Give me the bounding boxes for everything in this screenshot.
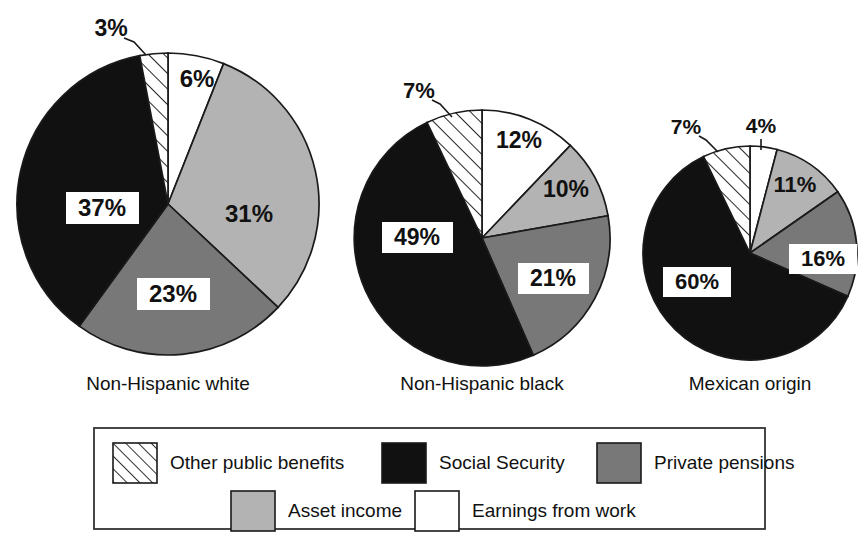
- pie-caption-non-hispanic-black: Non-Hispanic black: [400, 373, 564, 394]
- callout-line-other-public-benefits: [432, 100, 452, 117]
- pie-caption-mexican-origin: Mexican origin: [689, 373, 812, 394]
- pie-label-private-pensions: 16%: [801, 246, 845, 271]
- pie-label-earnings-from-work: 6%: [180, 65, 215, 92]
- legend-swatch-earnings-from-work: [415, 491, 459, 531]
- pie-label-social-security: 49%: [394, 224, 440, 250]
- legend-label-asset-income: Asset income: [288, 500, 402, 521]
- pie-label-other-public-benefits: 3%: [94, 15, 127, 41]
- legend-swatch-private-pensions: [597, 443, 641, 483]
- legend-label-private-pensions: Private pensions: [654, 452, 794, 473]
- pie-label-private-pensions: 21%: [530, 265, 576, 291]
- legend: Other public benefits Social Security Pr…: [94, 428, 794, 531]
- legend-swatch-other-public-benefits: [113, 443, 157, 483]
- pie-label-other-public-benefits: 7%: [671, 115, 702, 138]
- pie-chart-mexican-origin: 7% 4% 11% 16% 60% Mexican origin: [643, 114, 857, 394]
- legend-label-earnings-from-work: Earnings from work: [472, 500, 636, 521]
- pie-label-other-public-benefits: 7%: [403, 78, 435, 103]
- pie-label-earnings-from-work: 4%: [746, 114, 777, 137]
- pie-label-earnings-from-work: 12%: [496, 127, 542, 153]
- pie-chart-figure: 3% 6% 31% 23% 37% Non-Hispanic white 7% …: [0, 0, 867, 549]
- pie-label-social-security: 37%: [78, 194, 126, 221]
- pie-label-private-pensions: 23%: [149, 280, 197, 307]
- pie-chart-non-hispanic-white: 3% 6% 31% 23% 37% Non-Hispanic white: [17, 15, 319, 394]
- pie-caption-non-hispanic-white: Non-Hispanic white: [86, 373, 250, 394]
- pie-label-asset-income: 10%: [543, 176, 589, 202]
- chart-canvas: 3% 6% 31% 23% 37% Non-Hispanic white 7% …: [0, 0, 867, 549]
- legend-swatch-asset-income: [231, 491, 275, 531]
- legend-label-social-security: Social Security: [439, 452, 565, 473]
- legend-label-other-public-benefits: Other public benefits: [170, 452, 344, 473]
- pie-label-asset-income: 31%: [225, 200, 273, 227]
- pie-label-social-security: 60%: [675, 269, 719, 294]
- legend-swatch-social-security: [382, 443, 426, 483]
- callout-line-other-public-benefits: [699, 136, 718, 152]
- pie-label-asset-income: 11%: [774, 172, 817, 197]
- pie-chart-non-hispanic-black: 7% 12% 10% 21% 49% Non-Hispanic black: [354, 78, 610, 394]
